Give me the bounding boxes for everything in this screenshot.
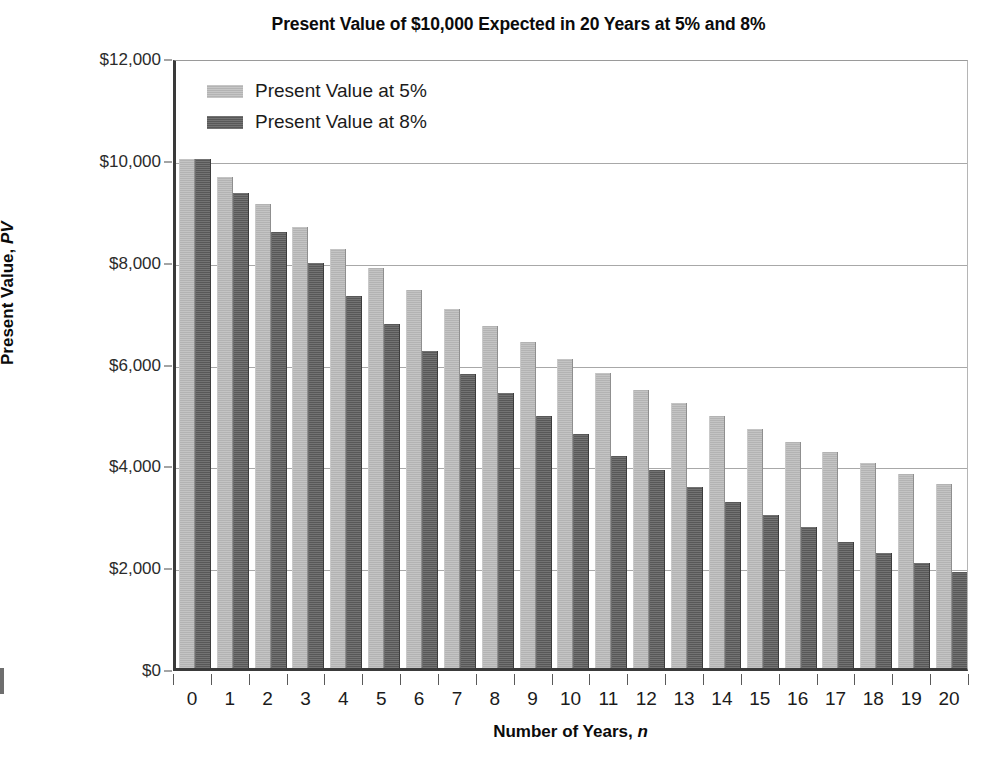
bars-layer bbox=[176, 61, 967, 668]
bar-5pct[interactable] bbox=[255, 204, 271, 668]
x-axis-tick-mark bbox=[930, 674, 931, 685]
bar-5pct[interactable] bbox=[709, 416, 725, 668]
bar-5pct[interactable] bbox=[406, 290, 422, 668]
x-axis-tick-label: 15 bbox=[749, 688, 770, 710]
bar-5pct[interactable] bbox=[822, 452, 838, 668]
x-axis-tick-mark bbox=[362, 674, 363, 685]
y-axis-tick-label: $10,000 bbox=[61, 152, 161, 172]
dark-gray-swatch-icon bbox=[207, 116, 243, 129]
x-axis-tick-label: 13 bbox=[673, 688, 694, 710]
x-axis-tick-label: 2 bbox=[262, 688, 273, 710]
bar-5pct[interactable] bbox=[444, 309, 460, 668]
bar-5pct[interactable] bbox=[898, 474, 914, 668]
x-axis-tick-mark bbox=[211, 674, 212, 685]
bar-8pct[interactable] bbox=[308, 263, 324, 668]
y-axis-tick-label: $4,000 bbox=[61, 457, 161, 477]
bar-group bbox=[857, 61, 895, 668]
x-axis-tick-mark bbox=[817, 674, 818, 685]
bar-8pct[interactable] bbox=[763, 515, 779, 668]
bar-5pct[interactable] bbox=[785, 442, 801, 668]
y-axis-tick-label: $0 bbox=[61, 661, 161, 681]
x-axis-title-text: Number of Years, bbox=[493, 722, 637, 741]
y-axis-title-italic: PV bbox=[0, 221, 17, 244]
bar-5pct[interactable] bbox=[292, 227, 308, 668]
x-axis-tick-mark bbox=[438, 674, 439, 685]
bar-5pct[interactable] bbox=[860, 463, 876, 668]
bar-5pct[interactable] bbox=[595, 373, 611, 668]
bar-8pct[interactable] bbox=[460, 374, 476, 668]
bar-8pct[interactable] bbox=[611, 456, 627, 668]
bar-group bbox=[290, 61, 328, 668]
y-axis-title-text: Present Value, bbox=[0, 244, 17, 365]
bar-8pct[interactable] bbox=[271, 232, 287, 668]
bar-group bbox=[441, 61, 479, 668]
bar-8pct[interactable] bbox=[838, 542, 854, 668]
y-axis-tick-mark bbox=[164, 60, 172, 61]
x-axis-tick-mark bbox=[665, 674, 666, 685]
x-axis-tick-label: 7 bbox=[452, 688, 463, 710]
y-axis-tick-mark bbox=[164, 467, 172, 468]
x-axis-tick-label: 6 bbox=[414, 688, 425, 710]
bar-8pct[interactable] bbox=[876, 553, 892, 668]
chart-page: Present Value of $10,000 Expected in 20 … bbox=[0, 0, 1001, 774]
chart-legend: Present Value at 5% Present Value at 8% bbox=[207, 80, 427, 133]
x-axis-tick-mark bbox=[476, 674, 477, 685]
bar-group bbox=[214, 61, 252, 668]
bar-group bbox=[895, 61, 933, 668]
light-gray-swatch-icon bbox=[207, 85, 243, 98]
bar-group bbox=[176, 61, 214, 668]
bar-8pct[interactable] bbox=[422, 351, 438, 668]
x-axis-tick-mark bbox=[324, 674, 325, 685]
bar-8pct[interactable] bbox=[498, 393, 514, 668]
bar-5pct[interactable] bbox=[368, 268, 384, 668]
bar-group bbox=[820, 61, 858, 668]
legend-item-5pct[interactable]: Present Value at 5% bbox=[207, 80, 427, 102]
x-axis-title-italic: n bbox=[637, 722, 647, 741]
legend-label-8pct: Present Value at 8% bbox=[255, 111, 427, 133]
bar-8pct[interactable] bbox=[384, 324, 400, 668]
bar-5pct[interactable] bbox=[557, 359, 573, 668]
bar-8pct[interactable] bbox=[346, 296, 362, 668]
bar-group bbox=[327, 61, 365, 668]
plot-area bbox=[173, 60, 968, 671]
bar-5pct[interactable] bbox=[747, 429, 763, 668]
bar-8pct[interactable] bbox=[952, 572, 967, 668]
x-axis-tick-mark bbox=[779, 674, 780, 685]
y-axis-tick-label: $6,000 bbox=[61, 356, 161, 376]
legend-item-8pct[interactable]: Present Value at 8% bbox=[207, 111, 427, 133]
x-axis-tick-label: 20 bbox=[938, 688, 959, 710]
bar-8pct[interactable] bbox=[536, 416, 552, 668]
bar-5pct[interactable] bbox=[482, 326, 498, 668]
bar-group bbox=[517, 61, 555, 668]
x-axis-tick-mark bbox=[892, 674, 893, 685]
x-axis-tick-label: 10 bbox=[560, 688, 581, 710]
x-axis-tick-mark bbox=[173, 674, 174, 685]
bar-group bbox=[479, 61, 517, 668]
x-axis-tick-label: 5 bbox=[376, 688, 387, 710]
bar-5pct[interactable] bbox=[936, 484, 952, 668]
x-axis-tick-label: 19 bbox=[901, 688, 922, 710]
y-axis-tick-label: $2,000 bbox=[61, 559, 161, 579]
bar-8pct[interactable] bbox=[233, 193, 249, 668]
bar-8pct[interactable] bbox=[725, 502, 741, 668]
x-axis-tick-label: 16 bbox=[787, 688, 808, 710]
bar-8pct[interactable] bbox=[195, 159, 211, 668]
bar-5pct[interactable] bbox=[520, 342, 536, 668]
bar-8pct[interactable] bbox=[914, 563, 930, 668]
bar-5pct[interactable] bbox=[633, 390, 649, 668]
bar-5pct[interactable] bbox=[671, 403, 687, 668]
bar-8pct[interactable] bbox=[649, 470, 665, 668]
x-axis-tick-mark bbox=[287, 674, 288, 685]
plot-inner bbox=[176, 61, 967, 668]
bar-8pct[interactable] bbox=[801, 527, 817, 668]
bar-8pct[interactable] bbox=[687, 487, 703, 668]
bar-5pct[interactable] bbox=[330, 249, 346, 668]
x-axis-tick-label: 4 bbox=[338, 688, 349, 710]
bar-8pct[interactable] bbox=[573, 434, 589, 668]
bar-5pct[interactable] bbox=[179, 159, 195, 668]
x-axis-tick-mark bbox=[400, 674, 401, 685]
y-axis-tick-label: $8,000 bbox=[61, 254, 161, 274]
y-axis-tick-mark bbox=[164, 263, 172, 264]
bar-5pct[interactable] bbox=[217, 177, 233, 668]
y-axis-tick-mark bbox=[164, 569, 172, 570]
